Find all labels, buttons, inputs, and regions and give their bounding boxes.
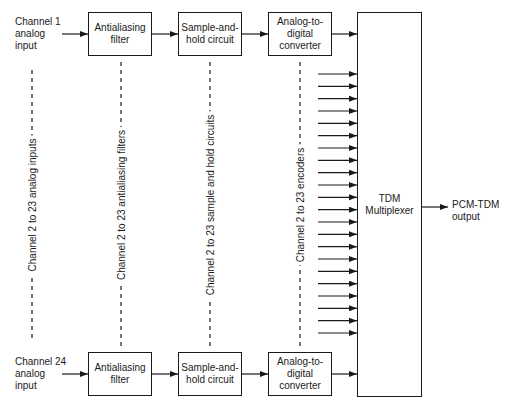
antialiasing-filter-ch24-label: Antialiasing filter bbox=[94, 362, 145, 386]
omitted-encoders-label: Channel 2 to 23 encoders bbox=[295, 145, 306, 266]
channel-24-input-label: Channel 24 analog input bbox=[15, 356, 66, 392]
adc-ch24: Analog-to- digital converter bbox=[268, 352, 332, 396]
pcm-tdm-output-label: PCM-TDM output bbox=[452, 199, 499, 223]
antialiasing-filter-ch24: Antialiasing filter bbox=[88, 352, 152, 396]
antialiasing-filter-ch1-label: Antialiasing filter bbox=[94, 22, 145, 46]
omitted-sample-hold-label: Channel 2 to 23 sample and hold circuits bbox=[205, 112, 216, 299]
tdm-multiplexer-label: TDM Multiplexer bbox=[365, 193, 413, 217]
adc-ch1: Analog-to- digital converter bbox=[268, 12, 332, 56]
antialiasing-filter-ch1: Antialiasing filter bbox=[88, 12, 152, 56]
sample-hold-ch1: Sample-and- hold circuit bbox=[178, 12, 242, 56]
sample-hold-ch24: Sample-and- hold circuit bbox=[178, 352, 242, 396]
tdm-multiplexer: TDM Multiplexer bbox=[357, 12, 422, 397]
sample-hold-ch24-label: Sample-and- hold circuit bbox=[181, 362, 238, 386]
adc-ch24-label: Analog-to- digital converter bbox=[277, 356, 323, 392]
omitted-filters-label: Channel 2 to 23 antialiasing filters bbox=[116, 127, 127, 283]
encoder-arrows bbox=[318, 74, 357, 333]
channel-1-input-label: Channel 1 analog input bbox=[15, 16, 61, 52]
sample-hold-ch1-label: Sample-and- hold circuit bbox=[181, 22, 238, 46]
connection-lines bbox=[0, 0, 506, 411]
omitted-inputs-label: Channel 2 to 23 analog inputs bbox=[27, 136, 38, 275]
adc-ch1-label: Analog-to- digital converter bbox=[277, 16, 323, 52]
